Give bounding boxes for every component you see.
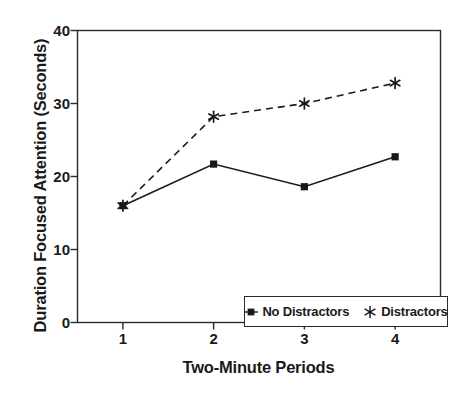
series-line-no-distractors [123,157,395,206]
plot-area [0,0,459,394]
legend-label-distractors: Distractors [381,305,447,318]
data-point-distractors [390,78,399,89]
square-filled-marker-icon [244,305,258,319]
square-filled-marker-icon [392,153,399,160]
square-filled-marker-icon [301,183,308,190]
chart-figure: Duration Focused Attention (Seconds) Two… [0,0,459,394]
data-point-no-distractors [301,183,308,190]
chart-legend: No Distractors Distractors [244,296,448,327]
plot-box-spines [78,31,441,323]
data-point-no-distractors [210,160,217,167]
square-filled-marker-icon [210,160,217,167]
asterisk-marker-icon [363,305,377,319]
legend-entry-distractors: Distractors [363,305,447,319]
data-point-no-distractors [392,153,399,160]
legend-label-no-distractors: No Distractors [262,305,349,318]
legend-entry-no-distractors: No Distractors [244,305,349,319]
